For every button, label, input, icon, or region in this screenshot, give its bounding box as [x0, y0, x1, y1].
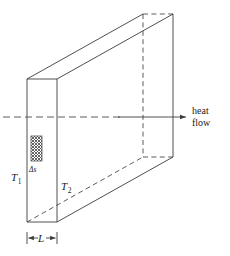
area-element-hatch-rect [31, 136, 42, 161]
top-face-right-receding-edge [57, 14, 173, 79]
hidden-edge-bottom-left-receding [27, 157, 143, 222]
bottom-face-right-receding-edge [57, 157, 173, 222]
heat-flow-label-line1: heat [192, 105, 209, 116]
area-element-label: Δs [28, 165, 36, 174]
heat-flow-label-line2: flow [192, 117, 211, 128]
temperature-cold-label: T2 [61, 180, 72, 195]
thickness-label: L [37, 232, 44, 244]
hidden-edges-group [27, 14, 173, 222]
heat-conduction-diagram: T1 T2 Δs L heat flow [0, 0, 230, 256]
slab-figure: T1 T2 Δs L heat flow [0, 0, 230, 256]
solid-edges-group [27, 14, 173, 222]
temperature-cold-subscript: 2 [68, 186, 72, 195]
temperature-hot-label: T1 [11, 171, 22, 186]
temperature-hot-subscript: 1 [18, 177, 22, 186]
top-face-left-receding-edge [27, 14, 143, 79]
